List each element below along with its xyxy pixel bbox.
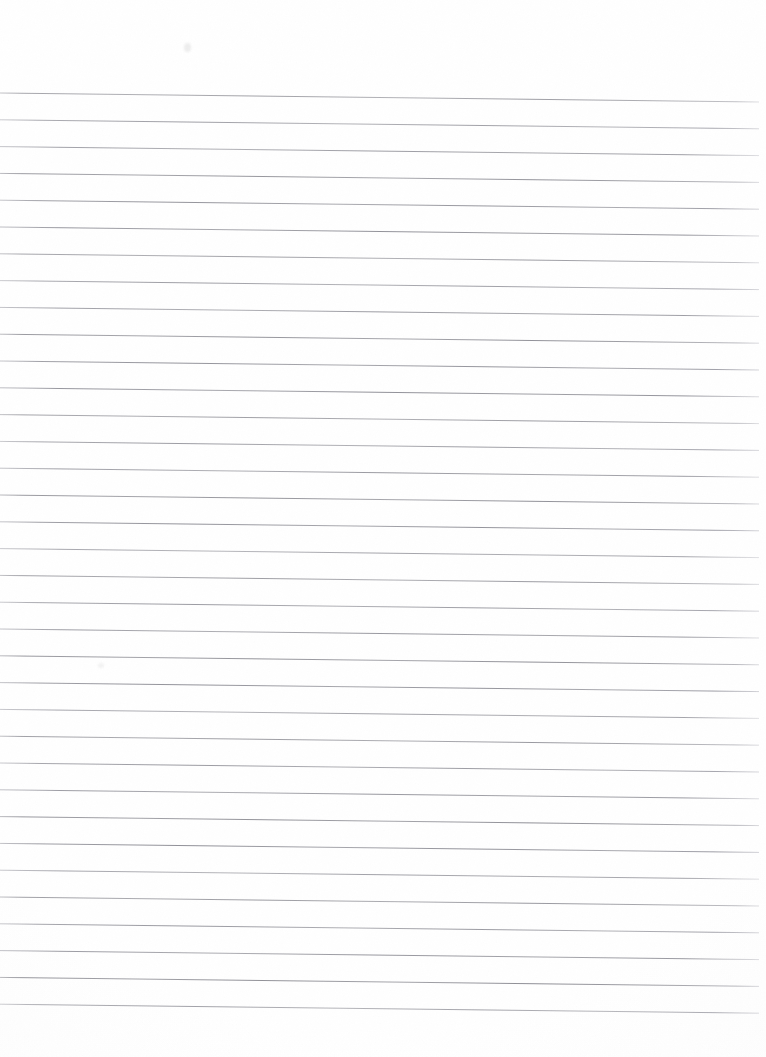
ruled-line bbox=[0, 200, 759, 209]
ruled-line bbox=[0, 334, 759, 343]
ruled-line bbox=[0, 683, 759, 692]
ruled-line bbox=[0, 602, 759, 611]
ruled-line bbox=[0, 817, 759, 826]
ruled-line bbox=[0, 441, 759, 450]
ruled-line bbox=[0, 736, 759, 745]
ruled-line bbox=[0, 281, 759, 290]
ruled-line bbox=[0, 147, 759, 156]
ruled-line bbox=[0, 495, 759, 504]
ruled-line bbox=[0, 173, 759, 182]
ruled-line bbox=[0, 307, 759, 316]
ruled-line bbox=[0, 870, 759, 879]
ruled-line bbox=[0, 415, 759, 424]
ruled-line bbox=[0, 254, 759, 263]
ruled-line bbox=[0, 763, 759, 772]
ruled-line-group bbox=[0, 93, 759, 1013]
ruled-line bbox=[0, 951, 759, 960]
ruled-line bbox=[0, 924, 759, 933]
ruled-line bbox=[0, 93, 759, 102]
scanned-page bbox=[0, 0, 766, 1057]
ruled-line bbox=[0, 790, 759, 799]
ruled-line bbox=[0, 709, 759, 718]
ruled-line bbox=[0, 575, 759, 584]
ruled-line bbox=[0, 897, 759, 906]
ruled-line bbox=[0, 120, 759, 129]
ruled-line bbox=[0, 522, 759, 531]
ruled-line bbox=[0, 629, 759, 638]
ruled-line bbox=[0, 388, 759, 397]
ruled-line bbox=[0, 361, 759, 370]
ruled-line bbox=[0, 549, 759, 558]
ruled-lines-layer bbox=[0, 0, 766, 1057]
ruled-line bbox=[0, 468, 759, 477]
ruled-line bbox=[0, 656, 759, 665]
ruled-lines-svg bbox=[0, 0, 766, 1057]
ruled-line bbox=[0, 843, 759, 852]
ruled-line bbox=[0, 227, 759, 236]
ruled-line bbox=[0, 1004, 759, 1013]
ruled-line bbox=[0, 977, 759, 986]
